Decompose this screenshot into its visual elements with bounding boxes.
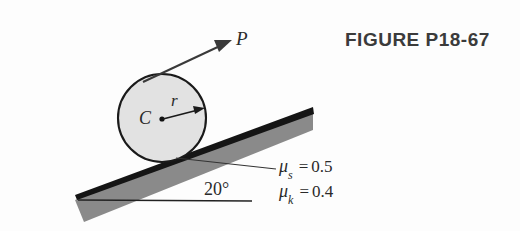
figure-title: FIGURE P18-67	[345, 29, 490, 51]
figure-container: FIGURE P18-67 P C r 20° μs=0.5 μk=0.4	[0, 0, 520, 231]
mu-static-symbol: μ	[279, 156, 288, 176]
static-friction-label: μs=0.5	[279, 157, 333, 178]
force-p-arrow-shaft	[143, 45, 222, 82]
mu-static-equals: =	[293, 157, 309, 176]
mu-kinetic-value: 0.4	[309, 182, 333, 201]
mu-static-value: 0.5	[308, 157, 332, 176]
mu-static-subscript: s	[288, 168, 293, 182]
force-p-arrow-head	[214, 40, 232, 52]
radius-r-label: r	[171, 91, 178, 111]
center-c-label: C	[139, 108, 151, 129]
incline-angle-label: 20°	[204, 179, 229, 200]
mu-kinetic-subscript: k	[288, 193, 293, 207]
force-p-label: P	[236, 28, 248, 50]
kinetic-friction-label: μk=0.4	[279, 182, 333, 203]
mu-kinetic-symbol: μ	[279, 181, 288, 201]
mu-kinetic-equals: =	[293, 182, 309, 201]
